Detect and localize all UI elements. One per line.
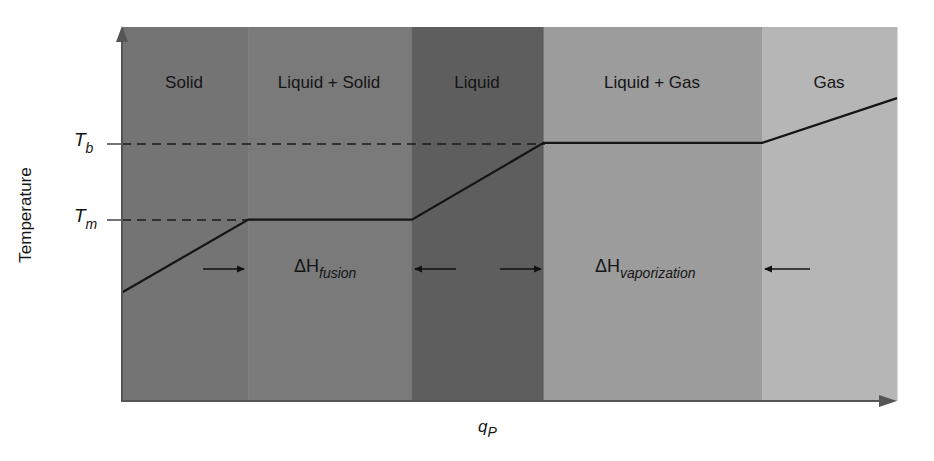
region-label-gas: Gas	[813, 73, 844, 92]
tm-label-sub: m	[86, 216, 98, 232]
y-axis-label: Temperature	[16, 167, 35, 262]
tb-label: Tb	[74, 129, 94, 156]
delta-h-vaporization-sub: vaporization	[620, 265, 696, 281]
region-label-liquid-solid: Liquid + Solid	[278, 73, 381, 92]
heating-curve-chart: Solid Liquid + Solid Liquid Liquid + Gas…	[0, 0, 934, 461]
x-axis-label: qP	[478, 417, 497, 440]
region-label-liquid-gas: Liquid + Gas	[604, 73, 700, 92]
delta-h-fusion-sub: fusion	[319, 265, 357, 281]
tm-label: Tm	[74, 205, 98, 232]
tb-label-sub: b	[86, 140, 94, 156]
region-label-solid: Solid	[165, 73, 203, 92]
delta-h-vaporization-symbol: ΔH	[595, 256, 620, 276]
region-label-liquid: Liquid	[454, 73, 499, 92]
phase-regions	[122, 27, 898, 401]
delta-h-fusion-symbol: ΔH	[294, 256, 319, 276]
x-axis-label-sub: P	[487, 424, 497, 440]
